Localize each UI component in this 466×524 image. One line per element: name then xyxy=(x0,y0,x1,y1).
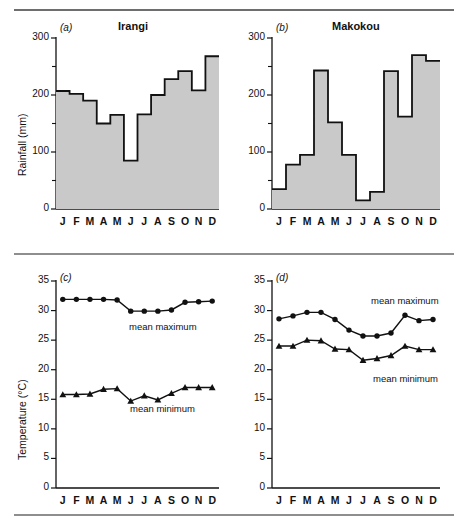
y-axis-tick-label: 25 xyxy=(225,333,265,344)
data-point-marker-circle xyxy=(196,299,201,304)
x-axis-tick-label: D xyxy=(200,494,224,506)
data-point-marker-circle xyxy=(430,317,435,322)
data-point-marker-circle xyxy=(142,308,147,313)
data-point-marker-circle xyxy=(87,297,92,302)
y-axis-tick-label: 35 xyxy=(225,274,265,285)
y-axis-tick-label: 300 xyxy=(9,31,49,42)
series-line-mean-minimum xyxy=(279,340,433,360)
series-label-mean-minimum-d: mean minimum xyxy=(373,373,438,384)
data-point-marker-circle xyxy=(276,316,281,321)
data-point-marker-circle xyxy=(304,310,309,315)
y-axis-tick-label: 15 xyxy=(225,392,265,403)
y-axis-tick-label: 20 xyxy=(9,363,49,374)
data-point-marker-circle xyxy=(346,327,351,332)
series-line-mean-maximum xyxy=(63,299,212,311)
y-axis-tick-label: 200 xyxy=(225,88,265,99)
data-point-marker-circle xyxy=(155,308,160,313)
data-point-marker-circle xyxy=(388,330,393,335)
y-axis-tick-label: 200 xyxy=(9,88,49,99)
data-point-marker-circle xyxy=(332,317,337,322)
x-axis-tick-label: D xyxy=(421,215,445,227)
y-axis-tick-label: 25 xyxy=(9,333,49,344)
data-point-marker-triangle xyxy=(388,352,395,358)
series-label-mean-minimum-c: mean minimum xyxy=(130,403,195,414)
data-point-marker-circle xyxy=(318,310,323,315)
series-label-mean-maximum-d: mean maximum xyxy=(371,295,439,306)
y-axis-tick-label: 0 xyxy=(225,481,265,492)
y-axis-tick-label: 10 xyxy=(9,422,49,433)
data-point-marker-circle xyxy=(210,298,215,303)
data-point-marker-circle xyxy=(169,307,174,312)
x-axis-tick-label: D xyxy=(421,494,445,506)
plot-drawing-layer xyxy=(0,0,466,524)
series-label-mean-maximum-c: mean maximum xyxy=(129,321,197,332)
data-point-marker-circle xyxy=(114,297,119,302)
series-line-mean-minimum xyxy=(63,387,212,401)
data-point-marker-circle xyxy=(402,313,407,318)
series-line-mean-maximum xyxy=(279,312,433,336)
y-axis-tick-label: 300 xyxy=(225,31,265,42)
data-point-marker-circle xyxy=(128,308,133,313)
climate-figure: Rainfall (mm) Temperature (°C) (a) Irang… xyxy=(0,0,466,524)
data-point-marker-circle xyxy=(101,297,106,302)
y-axis-tick-label: 5 xyxy=(9,451,49,462)
data-point-marker-circle xyxy=(182,300,187,305)
data-point-marker-circle xyxy=(290,313,295,318)
y-axis-tick-label: 30 xyxy=(225,304,265,315)
y-axis-tick-label: 10 xyxy=(225,422,265,433)
y-axis-tick-label: 0 xyxy=(9,481,49,492)
data-point-marker-circle xyxy=(60,297,65,302)
data-point-marker-circle xyxy=(360,333,365,338)
data-point-marker-circle xyxy=(74,297,79,302)
data-point-marker-triangle xyxy=(402,343,409,349)
y-axis-tick-label: 20 xyxy=(225,363,265,374)
y-axis-tick-label: 30 xyxy=(9,304,49,315)
data-point-marker-circle xyxy=(374,333,379,338)
y-axis-tick-label: 0 xyxy=(225,202,265,213)
y-axis-tick-label: 100 xyxy=(225,145,265,156)
data-point-marker-triangle xyxy=(141,392,148,398)
y-axis-tick-label: 0 xyxy=(9,202,49,213)
x-axis-tick-label: D xyxy=(200,215,224,227)
y-axis-tick-label: 100 xyxy=(9,145,49,156)
y-axis-tick-label: 5 xyxy=(225,451,265,462)
y-axis-tick-label: 15 xyxy=(9,392,49,403)
y-axis-tick-label: 35 xyxy=(9,274,49,285)
data-point-marker-circle xyxy=(416,318,421,323)
